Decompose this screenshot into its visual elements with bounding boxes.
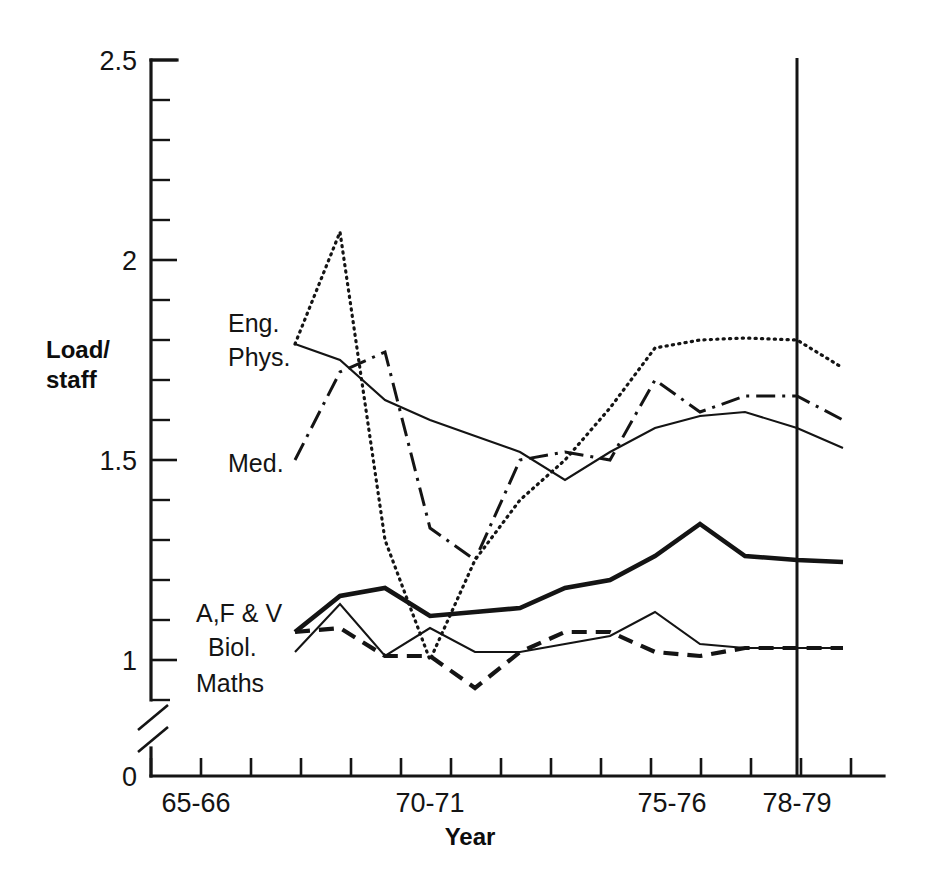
series-label-phys: Phys. bbox=[228, 343, 291, 371]
series-label-eng: Eng. bbox=[228, 309, 279, 337]
y-tick-label-1: 1 bbox=[122, 646, 137, 676]
series-line-biol bbox=[295, 628, 843, 688]
series-line-phys bbox=[295, 344, 843, 480]
x-ticks bbox=[151, 758, 851, 776]
line-chart: 2.5 2 1.5 1 0 65-66 70-71 75-76 78-79 Lo… bbox=[0, 0, 931, 885]
x-tick-labels: 65-66 70-71 75-76 78-79 bbox=[161, 788, 831, 818]
axis-break-upper bbox=[138, 705, 168, 730]
series-label-biol: Biol. bbox=[208, 633, 257, 661]
y-axis-title-line1: Load/ bbox=[46, 336, 110, 363]
chart-container: 2.5 2 1.5 1 0 65-66 70-71 75-76 78-79 Lo… bbox=[0, 0, 931, 885]
axis-break-lower bbox=[138, 727, 168, 752]
y-tick-labels: 2.5 2 1.5 1 0 bbox=[99, 46, 137, 792]
x-tick-label-75-76: 75-76 bbox=[637, 788, 706, 818]
x-tick-label-70-71: 70-71 bbox=[395, 788, 464, 818]
x-tick-label-65-66: 65-66 bbox=[161, 788, 230, 818]
y-tick-label-1.5: 1.5 bbox=[99, 446, 137, 476]
series-line-afv bbox=[295, 524, 843, 632]
x-tick-label-78-79: 78-79 bbox=[762, 788, 831, 818]
series-line-maths bbox=[295, 604, 843, 656]
y-tick-label-2: 2 bbox=[122, 246, 137, 276]
series-label-maths: Maths bbox=[196, 669, 264, 697]
series-line-med bbox=[295, 352, 843, 560]
series-line-eng bbox=[295, 232, 843, 660]
y-tick-label-0: 0 bbox=[122, 762, 137, 792]
series-label-med: Med. bbox=[228, 449, 284, 477]
y-axis-title-line2: staff bbox=[46, 366, 98, 393]
series-label-afv: A,F & V bbox=[196, 599, 282, 627]
y-major-ticks bbox=[151, 60, 177, 660]
y-minor-ticks bbox=[151, 100, 170, 700]
x-axis-title: Year bbox=[445, 823, 496, 850]
y-tick-label-2.5: 2.5 bbox=[99, 46, 137, 76]
